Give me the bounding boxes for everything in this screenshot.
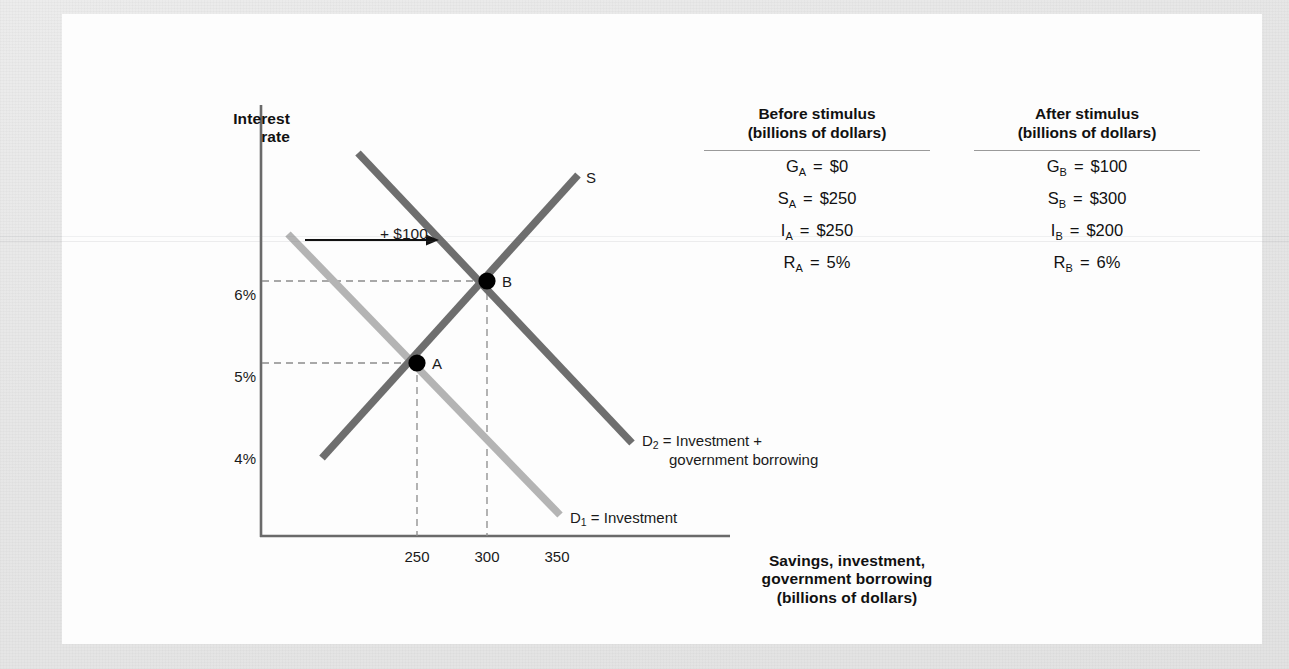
x-axis-title-line1: Savings, investment, <box>717 552 977 570</box>
y-tick-4pct: 4% <box>210 450 256 467</box>
cell-before-government: GA=$0 <box>682 151 952 183</box>
cell-before-savings-value: $250 <box>820 189 857 207</box>
curve-label-d2: D2 = Investment + government borrowing <box>642 432 818 470</box>
table-header-before-line1: Before stimulus <box>682 104 952 123</box>
table-header-after-line1: After stimulus <box>952 104 1222 123</box>
cell-before-rate-eq: = <box>803 253 827 272</box>
cell-after-savings-sub: B <box>1059 198 1066 210</box>
supply-curve-s <box>322 175 578 458</box>
cell-after-investment-sub: B <box>1055 230 1062 242</box>
table-header-after-line2: (billions of dollars) <box>952 123 1222 142</box>
cell-before-investment-sub: A <box>785 230 792 242</box>
cell-before-rate-value: 5% <box>827 253 851 271</box>
curve-label-d1-subscript: 1 <box>581 516 587 528</box>
point-label-a: A <box>432 355 442 372</box>
cell-after-investment-value: $200 <box>1086 221 1123 239</box>
table-header-before: Before stimulus (billions of dollars) <box>682 104 952 148</box>
cell-before-investment: IA=$250 <box>682 215 952 247</box>
cell-before-savings-eq: = <box>796 189 820 208</box>
cell-after-rate-value: 6% <box>1097 253 1121 271</box>
cell-after-government-value: $100 <box>1091 157 1128 175</box>
x-axis-title: Savings, investment, government borrowin… <box>717 552 977 607</box>
x-axis-title-line3: (billions of dollars) <box>717 589 977 607</box>
table-header-after: After stimulus (billions of dollars) <box>952 104 1222 148</box>
cell-before-rate-sub: A <box>796 262 803 274</box>
curve-label-d2-subscript: 2 <box>653 439 659 451</box>
y-axis-title-line1: Interest <box>180 110 290 128</box>
cell-before-savings: SA=$250 <box>682 183 952 215</box>
curve-label-d1-symbol: D <box>570 509 581 526</box>
y-axis-title-line2: rate <box>180 128 290 146</box>
table-row: GA=$0 GB=$100 <box>682 151 1222 183</box>
cell-after-government-eq: = <box>1067 157 1091 176</box>
table-row: RA=5% RB=6% <box>682 247 1222 279</box>
cell-after-rate: RB=6% <box>952 247 1222 279</box>
cell-before-savings-symbol: S <box>778 189 789 207</box>
cell-after-rate-sub: B <box>1066 262 1073 274</box>
x-axis-title-line2: government borrowing <box>717 570 977 588</box>
table-row: SA=$250 SB=$300 <box>682 183 1222 215</box>
cell-after-savings-eq: = <box>1066 189 1090 208</box>
curve-label-s: S <box>586 169 596 188</box>
cell-before-rate: RA=5% <box>682 247 952 279</box>
cell-after-rate-eq: = <box>1073 253 1097 272</box>
figure-card: Interest rate 6% 5% 4% 250 300 350 A B S… <box>62 14 1262 644</box>
cell-before-government-sub: A <box>799 166 806 178</box>
before-after-table: Before stimulus (billions of dollars) Af… <box>682 104 1222 279</box>
cell-before-government-symbol: G <box>786 157 799 175</box>
shift-annotation-label: + $100 <box>380 225 428 243</box>
table-row: IA=$250 IB=$200 <box>682 215 1222 247</box>
y-axis-title: Interest rate <box>180 110 290 147</box>
cell-after-savings-value: $300 <box>1090 189 1127 207</box>
point-label-b: B <box>502 273 512 290</box>
table-header-before-line2: (billions of dollars) <box>682 123 952 142</box>
cell-before-savings-sub: A <box>789 198 796 210</box>
cell-before-government-value: $0 <box>830 157 848 175</box>
table-body: GA=$0 GB=$100 SA=$250 SB=$300 <box>682 151 1222 279</box>
cell-before-rate-symbol: R <box>784 253 796 271</box>
cell-after-savings-symbol: S <box>1048 189 1059 207</box>
cell-before-investment-eq: = <box>793 221 817 240</box>
cell-after-government-sub: B <box>1060 166 1067 178</box>
y-tick-5pct: 5% <box>210 368 256 385</box>
cell-after-investment-eq: = <box>1063 221 1087 240</box>
curve-label-d2-symbol: D <box>642 432 653 449</box>
demand-curve-d2 <box>358 153 632 443</box>
equilibrium-point-b <box>478 272 495 289</box>
x-tick-250: 250 <box>389 548 445 565</box>
curve-label-d2-text-line2: government borrowing <box>669 451 818 470</box>
x-tick-350: 350 <box>529 548 585 565</box>
cell-before-government-eq: = <box>806 157 830 176</box>
cell-after-rate-symbol: R <box>1054 253 1066 271</box>
table-header-row: Before stimulus (billions of dollars) Af… <box>682 104 1222 148</box>
cell-after-government-symbol: G <box>1047 157 1060 175</box>
cell-before-investment-value: $250 <box>816 221 853 239</box>
equilibrium-point-a <box>408 354 425 371</box>
demand-curve-d1 <box>288 234 560 515</box>
cell-after-savings: SB=$300 <box>952 183 1222 215</box>
cell-after-investment: IB=$200 <box>952 215 1222 247</box>
curve-label-d2-text: = Investment + <box>663 432 762 449</box>
curve-label-d1: D1 = Investment <box>570 509 677 528</box>
comparison-table: Before stimulus (billions of dollars) Af… <box>682 104 1222 279</box>
y-tick-6pct: 6% <box>210 286 256 303</box>
curve-label-d1-text: = Investment <box>591 509 677 526</box>
cell-after-government: GB=$100 <box>952 151 1222 183</box>
table-head: Before stimulus (billions of dollars) Af… <box>682 104 1222 151</box>
x-tick-300: 300 <box>459 548 515 565</box>
